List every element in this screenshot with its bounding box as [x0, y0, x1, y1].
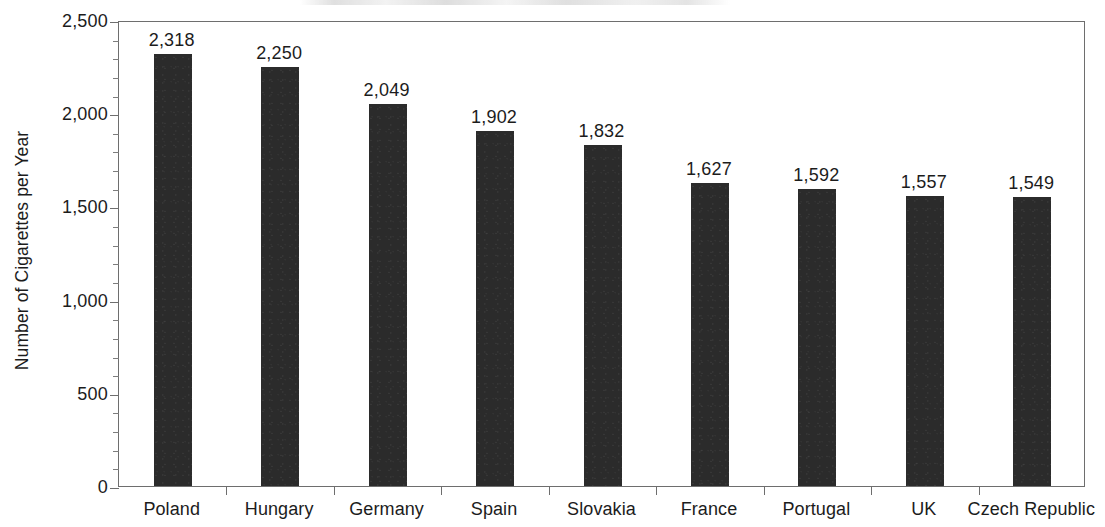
- bar-value-label: 1,549: [1008, 173, 1054, 194]
- y-axis-tick-label: 1,000: [36, 290, 108, 311]
- x-axis-tick: [979, 486, 980, 495]
- x-axis-category-label: France: [681, 499, 738, 520]
- y-axis-major-tick: [110, 488, 119, 489]
- x-axis-category-label: Germany: [349, 499, 424, 520]
- bar-value-label: 1,902: [471, 107, 517, 128]
- y-axis-tick-label: 1,500: [36, 197, 108, 218]
- y-axis-title: Number of Cigarettes per Year: [6, 0, 40, 500]
- bar[interactable]: [691, 183, 729, 486]
- y-axis-major-tick: [110, 395, 119, 396]
- bar-value-label: 1,832: [578, 121, 624, 142]
- y-axis-title-text: Number of Cigarettes per Year: [13, 130, 34, 369]
- bar[interactable]: [906, 196, 944, 486]
- y-axis-minor-tick: [113, 339, 119, 340]
- y-axis-minor-tick: [113, 451, 119, 452]
- x-axis-tick: [549, 486, 550, 495]
- y-axis-minor-tick: [113, 320, 119, 321]
- y-axis-minor-tick: [113, 152, 119, 153]
- bar[interactable]: [1013, 197, 1051, 486]
- bar[interactable]: [261, 67, 299, 486]
- x-axis-tick: [871, 486, 872, 495]
- y-axis-minor-tick: [113, 246, 119, 247]
- y-axis-minor-tick: [113, 358, 119, 359]
- y-axis-minor-tick: [113, 376, 119, 377]
- scan-artifact-strip: [300, 0, 730, 5]
- y-axis-major-tick: [110, 115, 119, 116]
- bar-chart-figure: Number of Cigarettes per Year 05001,0001…: [0, 0, 1105, 527]
- x-axis-category-label: Poland: [143, 499, 200, 520]
- y-axis-minor-tick: [113, 190, 119, 191]
- x-axis-category-label: Slovakia: [567, 499, 636, 520]
- bar-value-label: 1,592: [793, 165, 839, 186]
- x-axis-tick: [334, 486, 335, 495]
- x-axis-category-label: Spain: [471, 499, 518, 520]
- y-axis-major-tick: [110, 22, 119, 23]
- bar-value-label: 1,557: [901, 172, 947, 193]
- y-axis-minor-tick: [113, 264, 119, 265]
- y-axis-tick-label: 0: [36, 477, 108, 498]
- y-axis-tick-label: 500: [36, 383, 108, 404]
- y-axis-tick-labels: 05001,0001,5002,0002,500: [36, 0, 108, 527]
- x-axis-category-label: Hungary: [245, 499, 314, 520]
- y-axis-tick-label: 2,000: [36, 104, 108, 125]
- y-axis-minor-tick: [113, 134, 119, 135]
- x-axis-category-label: Portugal: [782, 499, 850, 520]
- y-axis-minor-tick: [113, 413, 119, 414]
- y-axis-major-tick: [110, 302, 119, 303]
- bar-value-label: 2,049: [364, 80, 410, 101]
- x-axis-category-label: Czech Republic: [968, 499, 1095, 520]
- x-axis-tick: [764, 486, 765, 495]
- x-axis-category-label: UK: [911, 499, 936, 520]
- x-axis-tick: [226, 486, 227, 495]
- bar-value-label: 1,627: [686, 159, 732, 180]
- y-axis-minor-tick: [113, 41, 119, 42]
- y-axis-minor-tick: [113, 97, 119, 98]
- bar[interactable]: [369, 104, 407, 486]
- y-axis-minor-tick: [113, 469, 119, 470]
- x-axis-tick: [441, 486, 442, 495]
- bar-value-label: 2,250: [256, 43, 302, 64]
- bar[interactable]: [798, 189, 836, 486]
- x-axis-tick: [656, 486, 657, 495]
- y-axis-minor-tick: [113, 59, 119, 60]
- y-axis-minor-tick: [113, 283, 119, 284]
- y-axis-tick-label: 2,500: [36, 11, 108, 32]
- y-axis-minor-tick: [113, 171, 119, 172]
- bar-value-label: 2,318: [149, 30, 195, 51]
- bar[interactable]: [476, 131, 514, 486]
- bars-layer: [119, 22, 1084, 486]
- bar[interactable]: [154, 54, 192, 486]
- y-axis-minor-tick: [113, 78, 119, 79]
- y-axis-minor-tick: [113, 227, 119, 228]
- plot-area: [118, 21, 1085, 487]
- bar[interactable]: [584, 145, 622, 486]
- y-axis-minor-tick: [113, 432, 119, 433]
- y-axis-major-tick: [110, 208, 119, 209]
